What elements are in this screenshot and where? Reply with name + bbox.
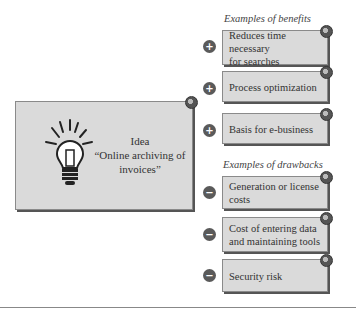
pin-icon [320, 66, 333, 79]
drawback-text: Security risk [229, 269, 323, 282]
benefit-item: Reduces time necessary for searches [222, 30, 328, 65]
drawback-text: costs [229, 193, 323, 206]
minus-icon: − [203, 186, 216, 199]
idea-title: Idea [94, 134, 186, 148]
idea-text: Idea “Online archiving of invoices” [94, 134, 186, 176]
bottom-divider [0, 307, 356, 308]
drawback-item: Generation or license costs [222, 176, 328, 209]
idea-line2: “Online archiving of [94, 148, 186, 162]
benefit-item: Basis for e-business [222, 113, 328, 144]
lightbulb-icon [44, 118, 94, 190]
idea-box: Idea “Online archiving of invoices” [15, 101, 193, 210]
minus-icon: − [203, 269, 216, 282]
drawback-item: Cost of entering data and maintaining to… [222, 217, 328, 252]
benefit-text: for searches [229, 54, 323, 67]
plus-icon: + [203, 82, 216, 95]
benefit-item: Process optimization [222, 71, 328, 102]
drawback-text: Cost of entering data [229, 222, 323, 235]
pin-icon [320, 212, 333, 225]
benefits-heading: Examples of benefits [224, 13, 311, 24]
drawback-text: and maintaining tools [229, 235, 323, 248]
idea-line3: invoices” [94, 162, 186, 176]
pin-icon [320, 108, 333, 121]
benefit-text: Basis for e-business [229, 122, 323, 135]
plus-icon: + [203, 124, 216, 137]
pin-icon [320, 25, 333, 38]
pin-icon [320, 171, 333, 184]
benefit-text: Process optimization [229, 80, 323, 93]
pin-icon [320, 254, 333, 267]
plus-icon: + [203, 40, 216, 53]
benefit-text: Reduces time necessary [229, 28, 323, 54]
minus-icon: − [203, 228, 216, 241]
drawback-item: Security risk [222, 259, 328, 292]
pin-icon [185, 96, 198, 109]
drawbacks-heading: Examples of drawbacks [223, 159, 323, 170]
drawback-text: Generation or license [229, 180, 323, 193]
